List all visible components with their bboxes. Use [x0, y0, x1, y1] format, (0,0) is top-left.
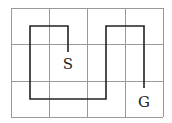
start-label: S [63, 55, 73, 73]
grid-path-diagram: S G [0, 0, 172, 123]
goal-label: G [138, 93, 150, 111]
